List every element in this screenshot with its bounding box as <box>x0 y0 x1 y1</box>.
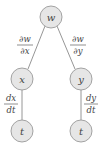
dw-dx-numerator: ∂w <box>19 34 31 44</box>
edge-label-dx-dt: dx dt <box>4 93 18 115</box>
node-x-label: x <box>19 74 25 85</box>
node-w: w <box>40 6 62 28</box>
node-w-label: w <box>47 12 56 23</box>
dy-dt-denominator: dt <box>87 105 96 115</box>
edge-label-dw-dx: ∂w ∂x <box>17 34 33 56</box>
dw-dy-numerator: ∂w <box>72 34 84 44</box>
node-y: y <box>70 68 92 90</box>
edge-label-dy-dt: dy dt <box>84 93 98 115</box>
dx-dt-denominator: dt <box>7 105 16 115</box>
dx-dt-numerator: dx <box>6 93 16 103</box>
node-t-left: t <box>11 120 33 142</box>
node-y-label: y <box>77 74 84 85</box>
edge-w-y <box>57 26 75 69</box>
chain-rule-tree-diagram: w x y t t ∂w ∂x ∂w ∂y dx dt dy dt <box>0 0 102 145</box>
dy-dt-numerator: dy <box>86 93 96 103</box>
edge-w-x <box>28 26 45 69</box>
edge-label-dw-dy: ∂w ∂y <box>70 34 86 56</box>
node-t-right: t <box>70 120 92 142</box>
dw-dy-denominator: ∂y <box>73 46 82 56</box>
dw-dx-denominator: ∂x <box>20 46 29 56</box>
node-x: x <box>11 68 33 90</box>
